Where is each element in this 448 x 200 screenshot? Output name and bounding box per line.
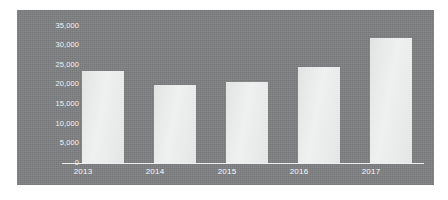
- bar-2016[interactable]: [298, 67, 340, 163]
- bar-2015[interactable]: [226, 82, 268, 163]
- plot-area: 35,000 30,000 25,000 20,000 15,000 10,00…: [17, 10, 434, 185]
- bars-layer: [62, 10, 424, 163]
- x-axis-label-2015: 2015: [191, 167, 263, 176]
- x-axis-label-2014: 2014: [119, 167, 191, 176]
- x-axis-label-2013: 2013: [47, 167, 119, 176]
- bar-2013[interactable]: [82, 71, 124, 163]
- x-axis-label-2016: 2016: [263, 167, 335, 176]
- bar-2014[interactable]: [154, 85, 196, 163]
- x-axis-line: [62, 163, 424, 164]
- chart-plot-panel: 35,000 30,000 25,000 20,000 15,000 10,00…: [17, 10, 434, 185]
- bar-chart-figure: 35,000 30,000 25,000 20,000 15,000 10,00…: [0, 0, 448, 200]
- x-axis-label-2017: 2017: [335, 167, 407, 176]
- bar-2017[interactable]: [370, 38, 412, 163]
